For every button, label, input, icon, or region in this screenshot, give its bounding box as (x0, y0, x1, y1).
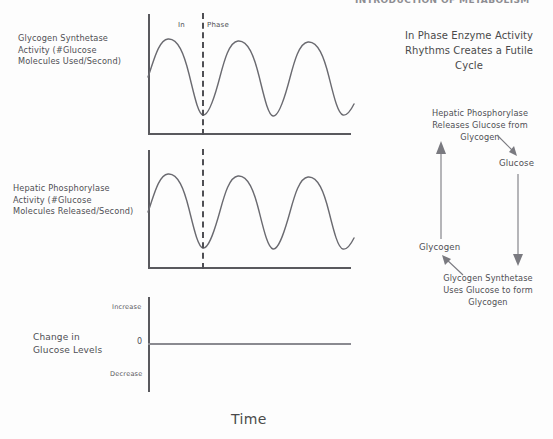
panel-2-y-label-line-1: Hepatic Phosphorylase (13, 183, 145, 195)
right-panel-title-line-2: Rhythms Creates a Futile (385, 43, 553, 58)
phase-label-left: In (178, 21, 185, 29)
panel-3-tick-increase: Increase (112, 303, 142, 311)
panel-3-tick-zero: 0 (137, 337, 142, 346)
panel-1-y-label-line-3: Molecules Used/Second) (18, 56, 143, 68)
cycle-step-synthetase: Glycogen Synthetase Uses Glucose to form… (424, 272, 552, 308)
right-panel-title-line-1: In Phase Enzyme Activity (385, 28, 553, 43)
panel-3-tick-decrease: Decrease (110, 370, 143, 378)
cycle-step-synthetase-line-3: Glycogen (424, 296, 552, 308)
panel-2-wave (148, 150, 354, 268)
right-panel-title: In Phase Enzyme Activity Rhythms Creates… (385, 28, 553, 73)
panel-1-y-label-line-1: Glycogen Synthetase (18, 33, 143, 45)
phase-label-right: Phase (207, 21, 229, 29)
x-axis-time-label: Time (231, 411, 267, 427)
arrow-phosphorylase-to-glucose-icon (495, 133, 525, 159)
cycle-node-glycogen: Glycogen (419, 242, 460, 252)
cycle-step-synthetase-line-2: Uses Glucose to form (424, 284, 552, 296)
diagram-canvas: INTRODUCTION OF METABOLISM Glycogen Synt… (0, 0, 553, 439)
phase-dashed-line-panel-1 (202, 13, 204, 135)
phase-dashed-line-panel-2 (202, 149, 204, 269)
right-panel-title-line-3: Cycle (385, 58, 553, 73)
panel-3-zero-line (148, 343, 351, 345)
arrow-glycogen-up-icon (434, 139, 448, 239)
arrow-glucose-down-icon (511, 174, 525, 268)
panel-2-y-label-line-2: Activity (#Glucose (13, 195, 145, 207)
panel-2-y-label: Hepatic Phosphorylase Activity (#Glucose… (13, 183, 145, 218)
panel-3-y-label-line-1: Change in (33, 331, 143, 344)
arrow-synthetase-to-glycogen-icon (437, 253, 467, 277)
cycle-node-glucose: Glucose (499, 158, 534, 168)
panel-1-wave (148, 14, 354, 134)
cycle-step-phosphorylase-line-2: Releases Glucose from (418, 119, 542, 131)
panel-2-y-label-line-3: Molecules Released/Second) (13, 206, 145, 218)
panel-1-y-label: Glycogen Synthetase Activity (#Glucose M… (18, 33, 143, 68)
panel-3-y-axis (148, 297, 150, 392)
panel-1-y-label-line-2: Activity (#Glucose (18, 45, 143, 57)
cycle-step-phosphorylase-line-1: Hepatic Phosphorylase (418, 107, 542, 119)
running-head: INTRODUCTION OF METABOLISM (355, 0, 545, 5)
panel-3-y-label-line-2: Glucose Levels (33, 344, 143, 357)
panel-3-y-label: Change in Glucose Levels (33, 331, 143, 356)
